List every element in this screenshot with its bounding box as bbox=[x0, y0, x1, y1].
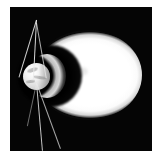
astro-scene bbox=[10, 7, 152, 151]
planet-surface-marking bbox=[26, 80, 35, 84]
figure-root bbox=[0, 0, 160, 151]
image-panel bbox=[10, 7, 152, 151]
